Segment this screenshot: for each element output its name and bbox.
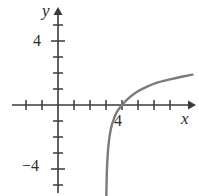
y-axis <box>54 7 63 193</box>
x-axis-arrowhead <box>188 101 196 110</box>
y-axis-label: y <box>42 2 50 19</box>
x-tick-label-4: 4 <box>114 113 122 129</box>
y-tick-label-4: 4 <box>33 33 41 49</box>
x-axis <box>12 101 196 110</box>
x-axis-label: x <box>181 110 189 127</box>
y-axis-arrowhead <box>54 7 63 15</box>
math-graph-figure: y x 4 −4 4 <box>0 0 199 196</box>
log-curve <box>106 75 192 196</box>
y-tick-label-minus-4: −4 <box>22 158 39 174</box>
